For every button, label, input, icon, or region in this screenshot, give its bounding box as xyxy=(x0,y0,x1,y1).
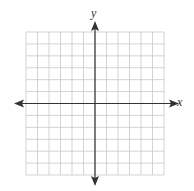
x-axis-label: x xyxy=(177,96,182,108)
x-axis xyxy=(14,100,179,108)
coordinate-plane xyxy=(0,0,194,191)
y-axis-label: y xyxy=(91,7,96,19)
